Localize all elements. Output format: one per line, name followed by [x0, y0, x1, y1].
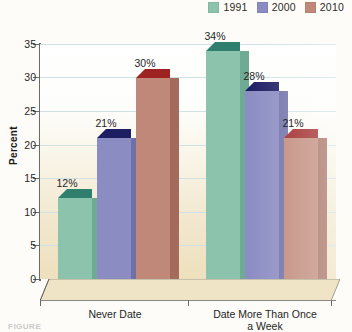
- bar-top-face: [58, 189, 92, 198]
- plot-area: [40, 44, 336, 279]
- chart-legend: 1991 2000 2010: [0, 2, 352, 13]
- bar-side-face: [170, 78, 179, 279]
- y-tick-label-0: 0: [0, 274, 36, 285]
- chart-floor-3d: [40, 279, 340, 301]
- bar-never-date-2000[interactable]: [97, 138, 131, 279]
- y-tick-label-15: 15: [0, 173, 36, 184]
- legend-item-1991[interactable]: 1991: [208, 2, 247, 13]
- legend-label-2010: 2010: [320, 2, 344, 13]
- y-tick-label-20: 20: [0, 140, 36, 151]
- bar-front-face: [136, 78, 170, 279]
- value-label-never-date-2000: 21%: [81, 118, 131, 129]
- bar-date-weekly-2010[interactable]: [284, 138, 318, 279]
- y-tick-label-25: 25: [0, 106, 36, 117]
- bar-front-face: [97, 138, 131, 279]
- x-tick-right: [331, 300, 332, 306]
- legend-swatch-2000: [257, 2, 268, 13]
- bar-top-face: [136, 69, 170, 78]
- bar-side-face: [318, 138, 327, 279]
- bar-top-face: [284, 129, 318, 138]
- bar-front-face: [58, 198, 92, 279]
- legend-item-2000[interactable]: 2000: [257, 2, 296, 13]
- legend-label-1991: 1991: [223, 2, 247, 13]
- bar-front-face: [206, 51, 240, 279]
- bar-top-face: [97, 129, 131, 138]
- x-tick-left: [40, 300, 41, 306]
- category-label-never-date: Never Date: [55, 308, 175, 320]
- bar-front-face: [284, 138, 318, 279]
- category-label-line2: a Week: [247, 320, 282, 332]
- value-label-date-weekly-1991: 34%: [190, 31, 240, 42]
- figure-caption: FIGURE: [8, 322, 41, 331]
- legend-swatch-2010: [305, 2, 316, 13]
- bar-top-face: [245, 82, 279, 91]
- category-label-line1: Never Date: [88, 308, 141, 320]
- x-tick-mid: [188, 300, 189, 306]
- y-tick-label-35: 35: [0, 39, 36, 50]
- category-label-date-weekly: Date More Than Once a Week: [200, 308, 330, 332]
- value-label-never-date-1991: 12%: [42, 178, 92, 189]
- category-label-line1: Date More Than Once: [213, 308, 317, 320]
- chart-figure: 1991 2000 2010 Percent 35 30 25 20 15 10…: [0, 0, 352, 332]
- y-tick-label-10: 10: [0, 207, 36, 218]
- value-label-never-date-2010: 30%: [120, 58, 170, 69]
- value-label-date-weekly-2000: 28%: [229, 71, 279, 82]
- gridline-25: [40, 111, 336, 112]
- legend-item-2010[interactable]: 2010: [305, 2, 344, 13]
- bar-never-date-2010[interactable]: [136, 78, 170, 279]
- gridline-35: [40, 44, 336, 45]
- legend-label-2000: 2000: [272, 2, 296, 13]
- bar-never-date-1991[interactable]: [58, 198, 92, 279]
- legend-swatch-1991: [208, 2, 219, 13]
- value-label-date-weekly-2010: 21%: [268, 118, 318, 129]
- bar-date-weekly-1991[interactable]: [206, 51, 240, 279]
- gridline-30: [40, 77, 336, 78]
- y-tick-label-5: 5: [0, 240, 36, 251]
- y-tick-label-30: 30: [0, 72, 36, 83]
